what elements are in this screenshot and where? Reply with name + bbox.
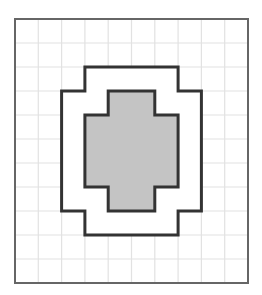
grid-diagram: [0, 0, 262, 295]
diagram-canvas: [0, 0, 262, 295]
